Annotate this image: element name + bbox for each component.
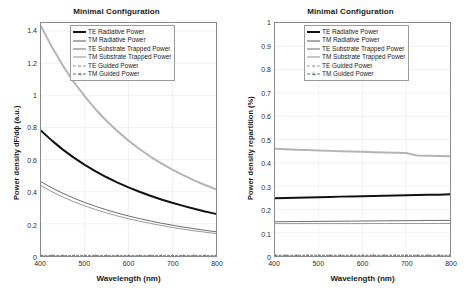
x-axis-ticks-left: 400500600700800 <box>40 260 217 272</box>
y-tick-label: 0.8 <box>27 124 37 131</box>
y-axis-label-right: Power density repartition (%) <box>246 96 255 200</box>
legend-swatch-tm_radiative-icon <box>307 37 320 45</box>
legend-swatch-te_substrate-icon <box>307 45 320 53</box>
y-tick-label: 1.4 <box>27 27 37 34</box>
x-tick-label: 700 <box>167 260 179 267</box>
x-tick-label: 500 <box>312 260 324 267</box>
legend-item-te_radiative[interactable]: TE Radiative Power <box>73 28 171 36</box>
x-tick-label: 800 <box>211 260 223 267</box>
y-tick-label: 1 <box>267 19 271 26</box>
x-axis-ticks-right: 400500600700800 <box>274 260 451 272</box>
y-tick-label: 0.6 <box>261 113 271 120</box>
x-tick-label: 400 <box>268 260 280 267</box>
legend-swatch-tm_guided-icon: ＋ <box>307 70 320 78</box>
legend-marker-tm_guided-icon: ＋ <box>77 71 83 77</box>
x-tick-label: 600 <box>123 260 135 267</box>
legend-label: TM Substrate Trapped Power <box>322 53 405 61</box>
legend-item-tm_radiative[interactable]: TM Radiative Power <box>73 36 171 44</box>
legend-label: TM Substrate Trapped Power <box>88 53 171 61</box>
y-tick-label: 0.1 <box>261 230 271 237</box>
legend-item-te_guided[interactable]: ○TE Guided Power <box>307 62 405 70</box>
y-tick-label: 1 <box>33 91 37 98</box>
y-axis-label-left: Power density dF/dϕ (a.u.) <box>12 106 21 200</box>
legend-label: TE Substrate Trapped Power <box>88 45 170 53</box>
chart-title-left: Minimal Configuration <box>0 7 233 16</box>
chart-title-right: Minimal Configuration <box>234 7 467 16</box>
legend-item-te_substrate[interactable]: TE Substrate Trapped Power <box>73 45 171 53</box>
legend-swatch-te_substrate-icon <box>73 45 86 53</box>
legend-right: TE Radiative PowerTM Radiative PowerTE S… <box>304 25 409 81</box>
legend-item-te_guided[interactable]: ○TE Guided Power <box>73 62 171 70</box>
figure-two-panel-plot: Minimal Configuration 00.20.40.60.811.21… <box>0 0 467 303</box>
legend-left: TE Radiative PowerTM Radiative PowerTE S… <box>70 25 175 81</box>
y-tick-label: 1.2 <box>27 59 37 66</box>
x-tick-label: 500 <box>78 260 90 267</box>
legend-marker-te_guided-icon: ○ <box>78 63 82 69</box>
legend-item-tm_radiative[interactable]: TM Radiative Power <box>307 36 405 44</box>
legend-swatch-te_radiative-icon <box>73 28 86 36</box>
legend-swatch-tm_substrate-icon <box>307 53 320 61</box>
y-tick-label: 0.5 <box>261 136 271 143</box>
legend-item-tm_guided[interactable]: ＋TM Guided Power <box>307 70 405 78</box>
legend-label: TM Radiative Power <box>88 36 146 44</box>
legend-item-tm_substrate[interactable]: TM Substrate Trapped Power <box>73 53 171 61</box>
legend-marker-te_guided-icon: ○ <box>312 63 316 69</box>
x-tick-label: 400 <box>34 260 46 267</box>
x-axis-label-left: Wavelength (nm) <box>40 274 217 283</box>
legend-swatch-tm_substrate-icon <box>73 53 86 61</box>
legend-item-te_substrate[interactable]: TE Substrate Trapped Power <box>307 45 405 53</box>
x-tick-label: 700 <box>401 260 413 267</box>
panel-right: Minimal Configuration 00.10.20.30.40.50.… <box>234 0 467 303</box>
x-axis-label-right: Wavelength (nm) <box>274 274 451 283</box>
legend-label: TE Radiative Power <box>322 28 378 36</box>
y-tick-label: 0.7 <box>261 89 271 96</box>
legend-swatch-tm_guided-icon: ＋ <box>73 70 86 78</box>
legend-label: TE Guided Power <box>88 62 138 70</box>
y-tick-label: 0.3 <box>261 183 271 190</box>
y-tick-label: 0.4 <box>27 189 37 196</box>
legend-marker-tm_guided-icon: ＋ <box>311 71 317 77</box>
y-tick-label: 0.9 <box>261 42 271 49</box>
legend-item-te_radiative[interactable]: TE Radiative Power <box>307 28 405 36</box>
y-tick-label: 0.2 <box>27 221 37 228</box>
legend-item-tm_guided[interactable]: ＋TM Guided Power <box>73 70 171 78</box>
x-tick-label: 600 <box>357 260 369 267</box>
y-tick-label: 0.6 <box>27 156 37 163</box>
legend-label: TE Guided Power <box>322 62 372 70</box>
legend-label: TM Guided Power <box>88 70 140 78</box>
y-tick-label: 0.2 <box>261 207 271 214</box>
legend-swatch-te_radiative-icon <box>307 28 320 36</box>
legend-item-tm_substrate[interactable]: TM Substrate Trapped Power <box>307 53 405 61</box>
panel-left: Minimal Configuration 00.20.40.60.811.21… <box>0 0 233 303</box>
legend-label: TE Radiative Power <box>88 28 144 36</box>
legend-swatch-tm_radiative-icon <box>73 37 86 45</box>
legend-label: TE Substrate Trapped Power <box>322 45 404 53</box>
legend-label: TM Guided Power <box>322 70 374 78</box>
legend-label: TM Radiative Power <box>322 36 380 44</box>
legend-swatch-te_guided-icon: ○ <box>73 62 86 70</box>
y-tick-label: 0.4 <box>261 160 271 167</box>
x-tick-label: 800 <box>445 260 457 267</box>
y-tick-label: 0.8 <box>261 66 271 73</box>
legend-swatch-te_guided-icon: ○ <box>307 62 320 70</box>
